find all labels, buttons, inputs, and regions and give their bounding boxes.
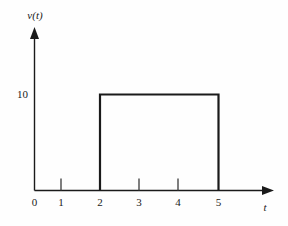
x-tick-label-1: 1 xyxy=(58,196,64,208)
figure-container: 10 0 1 2 3 4 5 v(t) t xyxy=(0,0,288,226)
x-axis xyxy=(35,186,275,195)
y-axis-arrow-icon xyxy=(30,27,39,39)
y-tick-label-10: 10 xyxy=(17,88,29,100)
x-axis-label: t xyxy=(263,201,267,213)
x-tick-label-4: 4 xyxy=(175,196,181,208)
x-tick-label-3: 3 xyxy=(136,196,142,208)
x-tick-label-5: 5 xyxy=(216,196,222,208)
x-tick-label-0: 0 xyxy=(32,196,38,208)
y-axis-label: v(t) xyxy=(27,9,43,22)
x-axis-ticks xyxy=(61,179,178,191)
y-axis xyxy=(30,27,39,191)
pulse-outline xyxy=(100,95,219,191)
x-tick-label-2: 2 xyxy=(97,196,103,208)
plot-canvas: 10 0 1 2 3 4 5 v(t) t xyxy=(0,0,288,226)
pulse-waveform xyxy=(100,95,219,191)
x-axis-arrow-icon xyxy=(262,186,274,195)
